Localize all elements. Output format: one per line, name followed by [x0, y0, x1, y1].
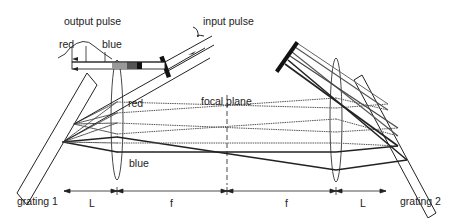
stretcher-diagram: output pulse input pulse red blue red bl…: [0, 0, 454, 218]
lens-1: [111, 60, 123, 180]
lens-2: [330, 58, 342, 182]
dim-f-left-label: f: [170, 198, 173, 209]
dim-f-right-label: f: [285, 198, 288, 209]
grating-2-label: grating 2: [400, 196, 441, 207]
blue-output-label: blue: [102, 39, 122, 50]
diagram-canvas: [0, 0, 454, 218]
dim-L-left-label: L: [89, 198, 95, 209]
rays-lens1-lens2: [117, 98, 336, 170]
dim-L-right-label: L: [360, 198, 366, 209]
input-pulse-label: input pulse: [203, 16, 254, 27]
focal-plane-label: focal plane: [201, 96, 252, 107]
blue-beam-label: blue: [129, 158, 149, 169]
grating-1-label: grating 1: [17, 196, 58, 207]
red-beam-label: red: [128, 98, 143, 109]
red-output-label: red: [59, 39, 74, 50]
output-pulse-label: output pulse: [64, 16, 121, 27]
dimension-line: [64, 187, 386, 195]
input-pulse-glyph: [193, 27, 204, 37]
grating-1: [17, 73, 97, 205]
retro-mirror: [275, 41, 299, 73]
